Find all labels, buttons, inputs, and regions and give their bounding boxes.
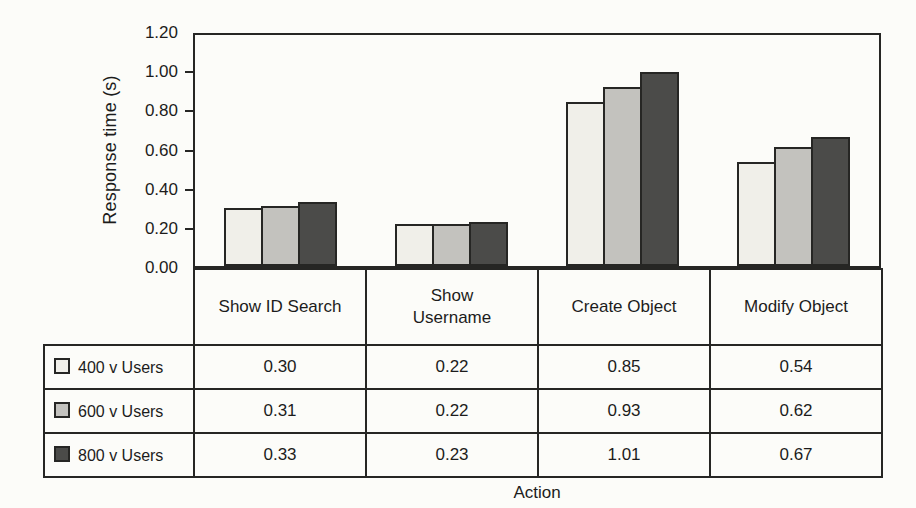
bar bbox=[261, 206, 300, 266]
value-cell: 0.62 bbox=[710, 389, 882, 433]
bar bbox=[640, 72, 679, 266]
y-tick-label: 0.60 bbox=[105, 142, 178, 160]
bar bbox=[432, 224, 471, 266]
y-tick-label: 0.40 bbox=[105, 181, 178, 199]
value-cell: 0.22 bbox=[366, 389, 538, 433]
legend-swatch-icon bbox=[54, 402, 70, 418]
bar bbox=[469, 222, 508, 266]
value-cell: 0.30 bbox=[194, 345, 366, 389]
bar bbox=[395, 224, 434, 266]
chart-figure: Response time (s) 1.201.000.800.600.400.… bbox=[0, 0, 916, 508]
bar-group bbox=[366, 35, 537, 266]
y-tick-label: 1.00 bbox=[105, 63, 178, 81]
bar bbox=[566, 102, 605, 266]
y-tick-label: 0.20 bbox=[105, 220, 178, 238]
value-cell: 1.01 bbox=[538, 433, 710, 477]
bar-group bbox=[195, 35, 366, 266]
bar bbox=[224, 208, 263, 266]
category-header-cell: Create Object bbox=[538, 269, 710, 345]
bar bbox=[603, 87, 642, 266]
category-header-cell: Show Username bbox=[366, 269, 538, 345]
bar bbox=[737, 162, 776, 266]
table-header-row: Show ID SearchShow UsernameCreate Object… bbox=[44, 269, 882, 345]
y-tick-mark bbox=[185, 189, 193, 191]
legend-swatch-icon bbox=[54, 446, 70, 462]
y-tick-label: 0.80 bbox=[105, 102, 178, 120]
value-cell: 0.33 bbox=[194, 433, 366, 477]
y-axis: 1.201.000.800.600.400.200.00 bbox=[105, 33, 193, 268]
legend-cell: 800 v Users bbox=[44, 433, 194, 477]
bar bbox=[298, 202, 337, 266]
legend-label: 400 v Users bbox=[78, 359, 163, 376]
legend-cell: 600 v Users bbox=[44, 389, 194, 433]
value-cell: 0.85 bbox=[538, 345, 710, 389]
bar bbox=[811, 137, 850, 266]
y-tick-mark bbox=[185, 150, 193, 152]
bar bbox=[774, 147, 813, 266]
y-tick-mark bbox=[185, 228, 193, 230]
bar-group bbox=[537, 35, 708, 266]
value-cell: 0.54 bbox=[710, 345, 882, 389]
bar-group bbox=[708, 35, 879, 266]
table-row: 400 v Users0.300.220.850.54 bbox=[44, 345, 882, 389]
value-cell: 0.93 bbox=[538, 389, 710, 433]
legend-swatch-icon bbox=[54, 358, 70, 374]
data-table: Show ID SearchShow UsernameCreate Object… bbox=[43, 268, 883, 478]
plot-area bbox=[193, 33, 881, 268]
x-axis-title: Action bbox=[193, 483, 881, 503]
legend-label: 800 v Users bbox=[78, 447, 163, 464]
value-cell: 0.31 bbox=[194, 389, 366, 433]
category-header-cell: Modify Object bbox=[710, 269, 882, 345]
table-row: 800 v Users0.330.231.010.67 bbox=[44, 433, 882, 477]
value-cell: 0.67 bbox=[710, 433, 882, 477]
legend-cell: 400 v Users bbox=[44, 345, 194, 389]
legend-label: 600 v Users bbox=[78, 403, 163, 420]
table-corner-cell bbox=[44, 269, 194, 345]
y-tick-mark bbox=[185, 110, 193, 112]
table-row: 600 v Users0.310.220.930.62 bbox=[44, 389, 882, 433]
value-cell: 0.23 bbox=[366, 433, 538, 477]
value-cell: 0.22 bbox=[366, 345, 538, 389]
y-tick-mark bbox=[185, 71, 193, 73]
category-header-cell: Show ID Search bbox=[194, 269, 366, 345]
y-tick-label: 1.20 bbox=[105, 24, 178, 42]
data-table-body: Show ID SearchShow UsernameCreate Object… bbox=[44, 269, 882, 477]
